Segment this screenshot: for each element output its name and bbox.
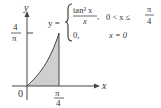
piecewise-brace bbox=[65, 4, 72, 41]
origin-label: 0 bbox=[18, 88, 23, 99]
y-tick-label-den: π bbox=[12, 33, 17, 43]
case1-denominator: x bbox=[82, 16, 87, 26]
shaded-area bbox=[27, 33, 59, 86]
case2-condition: x = 0 bbox=[108, 30, 128, 40]
y-axis-label: y bbox=[23, 2, 29, 13]
x-tick-label-den: 4 bbox=[56, 98, 61, 108]
x-tick-label-num: π bbox=[55, 88, 60, 98]
case1-numerator: tan² x bbox=[73, 5, 93, 15]
case1-comma: , bbox=[97, 11, 99, 21]
graph-canvas: y x 0 4 π π 4 y = tan² x x , 0 < x ≤ π 4… bbox=[0, 0, 161, 108]
equation-lhs: y = bbox=[48, 18, 60, 28]
x-axis-arrow-icon bbox=[94, 84, 100, 89]
y-tick-label-num: 4 bbox=[13, 22, 18, 32]
x-axis-label: x bbox=[101, 80, 107, 91]
case2-value: 0, bbox=[73, 30, 79, 40]
case1-cond-den: 4 bbox=[147, 16, 152, 26]
function-diagram: y x 0 4 π π 4 y = tan² x x , 0 < x ≤ π 4… bbox=[0, 0, 161, 108]
case1-cond-num: π bbox=[147, 4, 152, 14]
case1-condition: 0 < x ≤ bbox=[106, 12, 131, 22]
